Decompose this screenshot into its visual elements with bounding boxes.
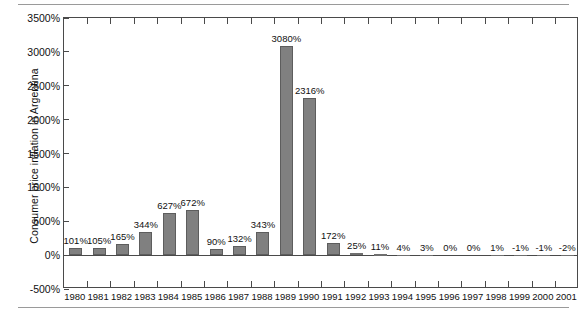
y-tick [64,51,69,52]
bar [280,46,293,255]
y-tick-label: 2000% [27,114,60,126]
x-axis-label: 2001 [548,291,585,302]
x-tick [485,281,486,287]
x-tick [227,281,228,287]
bar [69,248,82,255]
y-tick [64,85,69,86]
x-tick-top [157,18,158,24]
x-tick [415,281,416,287]
x-tick-top [110,18,111,24]
y-tick [64,289,69,290]
x-tick-top [134,18,135,24]
x-tick-top [274,18,275,24]
x-tick [461,281,462,287]
x-tick [344,281,345,287]
x-tick [110,281,111,287]
bar [537,255,550,256]
bar [350,253,363,255]
x-tick [181,281,182,287]
bar [514,255,527,256]
x-tick-top [204,18,205,24]
x-tick-top [415,18,416,24]
x-tick-top [438,18,439,24]
bar-value-label: 672% [169,197,216,208]
y-tick [64,187,69,188]
x-tick [368,281,369,287]
bar [233,246,246,255]
x-tick [274,281,275,287]
y-tick-label: 2500% [27,80,60,92]
y-tick-label: 3500% [27,12,60,24]
x-tick [532,281,533,287]
y-tick-label: 1000% [27,181,60,193]
x-tick [298,281,299,287]
x-tick [204,281,205,287]
x-tick [391,281,392,287]
x-tick-top [227,18,228,24]
x-tick [251,281,252,287]
bar [139,232,152,255]
top-rule [18,4,569,5]
bar-value-label: 3080% [263,33,310,44]
x-tick-top [298,18,299,24]
bar [210,249,223,255]
x-tick-top [391,18,392,24]
x-tick [87,281,88,287]
y-tick-label: 3000% [27,46,60,58]
bar [256,232,269,255]
x-tick-top [251,18,252,24]
chart-figure: Consumer price inflation in Argentina 35… [0,0,587,315]
y-tick [64,221,69,222]
bar [491,255,504,256]
bar [374,254,387,255]
x-tick-top [508,18,509,24]
bar-value-label: 2316% [286,85,333,96]
bar [163,213,176,255]
y-tick-label: 1500% [27,148,60,160]
x-tick-top [532,18,533,24]
x-tick-top [181,18,182,24]
x-tick-top [87,18,88,24]
x-tick-top [555,18,556,24]
y-tick-label: 500% [33,215,60,227]
bar-value-label: -2% [544,242,587,253]
bar [93,248,106,255]
x-tick [157,281,158,287]
y-tick [64,119,69,120]
x-tick [438,281,439,287]
bar [420,255,433,256]
plot-inner: 3500%3000%2500%2000%1500%1000%500%0%-500… [64,18,577,287]
bottom-rule [18,307,569,308]
x-tick [321,281,322,287]
x-tick-top [461,18,462,24]
x-tick [134,281,135,287]
plot-area: 3500%3000%2500%2000%1500%1000%500%0%-500… [63,17,578,288]
x-tick-top [485,18,486,24]
x-tick-top [344,18,345,24]
bar [116,244,129,255]
x-tick [555,281,556,287]
y-tick [64,18,69,19]
bar [397,255,410,256]
bar [561,255,574,256]
bar [186,210,199,256]
y-tick-label: 0% [45,249,60,261]
x-tick-top [321,18,322,24]
x-tick-top [368,18,369,24]
x-tick [508,281,509,287]
y-tick [64,153,69,154]
